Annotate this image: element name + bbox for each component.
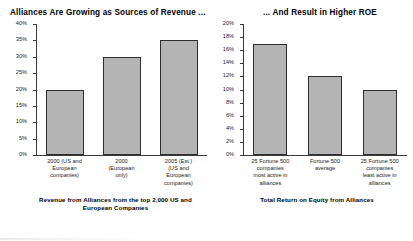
bar-slot [243,24,298,155]
y-tick-mark [33,139,36,140]
y-tick-label: 14% [223,61,234,67]
y-tick-mark [240,103,243,104]
charts-container: Alliances Are Growing as Sources of Reve… [0,0,413,212]
category-label: 25 Fortune 500companiesleast active inal… [352,158,407,187]
y-tick-mark [33,24,36,25]
plot-area-roe: 20%18%16%14%12%10%8%6%4%2%0% [213,24,413,155]
x-axis-line-roe [243,155,407,156]
y-tick-mark [33,106,36,107]
category-label: 2000(Europeanonly) [93,158,150,187]
bar-slot [36,24,93,155]
y-tick-label: 25% [16,70,27,76]
y-tick-mark [33,90,36,91]
plot-wrap-revenue: 40%35%30%25%20%15%10%5%0% 2000 (US andEu… [6,24,213,187]
bar [103,57,141,155]
category-label: 2000 (US andEuropeancompanies) [36,158,93,187]
category-label: Fortune 500average [298,158,353,187]
bar [363,90,397,156]
chart-title-roe: ... And Result in Higher ROE [213,6,413,20]
chart-caption-roe: Total Return on Equity from Alliances [223,196,411,204]
y-tick-mark [240,116,243,117]
chart-caption-revenue: Revenue from Alliances from the top 2,00… [24,196,207,212]
y-tick-mark [240,129,243,130]
y-tick-label: 16% [223,47,234,53]
category-label: 25 Fortune 500companiesmost active inall… [243,158,298,187]
y-tick-label: 6% [226,113,234,119]
y-tick-label: 2% [226,139,234,145]
y-tick-mark [240,155,243,156]
y-tick-label: 30% [16,54,27,60]
x-axis-categories-revenue: 2000 (US andEuropeancompanies)2000(Europ… [36,158,207,187]
chart-panel-revenue: Alliances Are Growing as Sources of Reve… [0,0,213,212]
y-tick-mark [240,63,243,64]
y-tick-label: 35% [16,38,27,44]
y-axis-revenue: 40%35%30%25%20%15%10%5%0% [6,24,32,155]
y-tick-label: 40% [16,21,27,27]
bar-slot [150,24,207,155]
y-tick-label: 12% [223,74,234,80]
y-axis-roe: 20%18%16%14%12%10%8%6%4%2%0% [213,24,239,155]
y-tick-mark [240,76,243,77]
y-tick-mark [240,50,243,51]
y-tick-label: 18% [223,34,234,40]
y-tick-mark [240,142,243,143]
y-tick-mark [240,90,243,91]
y-tick-mark [240,37,243,38]
plot-area-revenue: 40%35%30%25%20%15%10%5%0% [6,24,213,155]
y-tick-label: 5% [19,136,27,142]
y-tick-mark [33,155,36,156]
bar-group-roe [243,24,407,155]
chart-title-revenue: Alliances Are Growing as Sources of Reve… [6,6,213,20]
chart-panel-roe: ... And Result in Higher ROE 20%18%16%14… [213,0,413,212]
y-tick-mark [33,40,36,41]
y-tick-label: 20% [223,21,234,27]
y-tick-label: 15% [16,103,27,109]
bar-slot [298,24,353,155]
y-tick-label: 4% [226,126,234,132]
bar [46,90,84,156]
y-tick-mark [33,57,36,58]
bar-slot [93,24,150,155]
plot-wrap-roe: 20%18%16%14%12%10%8%6%4%2%0% 25 Fortune … [213,24,413,187]
y-tick-label: 0% [226,152,234,158]
y-tick-mark [240,24,243,25]
bar [308,76,342,155]
y-tick-mark [33,73,36,74]
page-footer-rule [0,238,150,240]
category-label: 2005 (Est.)(US andEuropeancompanies) [150,158,207,187]
y-tick-label: 0% [19,152,27,158]
bar-slot [352,24,407,155]
y-tick-label: 10% [16,119,27,125]
x-axis-line-revenue [36,155,207,156]
y-tick-label: 10% [223,87,234,93]
x-axis-categories-roe: 25 Fortune 500companiesmost active inall… [243,158,407,187]
y-tick-mark [33,122,36,123]
y-tick-label: 20% [16,87,27,93]
bar-group-revenue [36,24,207,155]
y-tick-label: 8% [226,100,234,106]
bar [160,40,198,155]
bar [253,44,287,155]
